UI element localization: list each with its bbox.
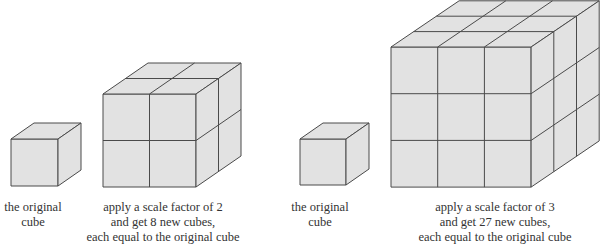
- cube-scaled-cube-2: [103, 63, 241, 187]
- caption-line: the original: [0, 200, 66, 215]
- caption-scale-factor-2: apply a scale factor of 2 and get 8 new …: [83, 200, 243, 245]
- caption-line: and get 27 new cubes,: [415, 215, 575, 230]
- front-face: [11, 139, 58, 186]
- caption-original-cube-left: the original cube: [0, 200, 66, 230]
- caption-line: each equal to the original cube: [83, 230, 243, 245]
- caption-line: apply a scale factor of 2: [83, 200, 243, 215]
- caption-line: apply a scale factor of 3: [415, 200, 575, 215]
- caption-scale-factor-3: apply a scale factor of 3 and get 27 new…: [415, 200, 575, 245]
- front-face: [300, 139, 346, 185]
- front-face: [391, 47, 531, 187]
- cube-original-cube-1: [11, 123, 81, 186]
- caption-line: the original: [287, 200, 353, 215]
- cube-scaled-cube-3: [391, 1, 599, 187]
- caption-line: each equal to the original cube: [415, 230, 575, 245]
- caption-original-cube-right: the original cube: [287, 200, 353, 230]
- caption-line: cube: [287, 215, 353, 230]
- caption-line: cube: [0, 215, 66, 230]
- cube-original-cube-2: [300, 123, 369, 185]
- caption-line: and get 8 new cubes,: [83, 215, 243, 230]
